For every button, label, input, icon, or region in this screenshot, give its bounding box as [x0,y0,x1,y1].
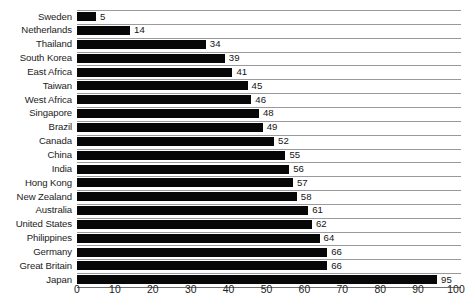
bar [77,40,206,49]
chart-row: Philippines64 [0,232,475,246]
chart-row: Netherlands14 [0,24,475,38]
category-label: Thailand [0,38,72,50]
bar-value-label: 46 [255,94,266,106]
chart-row: Germany66 [0,245,475,259]
bar-value-label: 52 [278,135,289,147]
category-label: India [0,163,72,175]
horizontal-bar-chart: Sweden5Netherlands14Thailand34South Kore… [0,0,475,306]
category-label: Netherlands [0,24,72,36]
category-label: Hong Kong [0,177,72,189]
bar-value-label: 55 [289,149,300,161]
chart-row: Thailand34 [0,38,475,52]
chart-row: Singapore48 [0,107,475,121]
x-tick-label: 60 [289,283,319,296]
chart-row: Great Britain66 [0,259,475,273]
bar [77,81,248,90]
bar [77,151,285,160]
category-label: Brazil [0,121,72,133]
chart-row: Taiwan45 [0,79,475,93]
bar [77,165,289,174]
bar-value-label: 57 [297,177,308,189]
chart-row: Sweden5 [0,10,475,24]
chart-row: South Korea39 [0,52,475,66]
bar [77,26,130,35]
chart-row: Canada52 [0,135,475,149]
x-tick-label: 20 [138,283,168,296]
bar-value-label: 64 [324,232,335,244]
x-tick-label: 30 [176,283,206,296]
bar-value-label: 49 [267,121,278,133]
category-label: West Africa [0,94,72,106]
bar-value-label: 5 [100,11,105,23]
category-label: United States [0,218,72,230]
category-label: Canada [0,135,72,147]
category-label: China [0,149,72,161]
bar-value-label: 61 [312,204,323,216]
chart-row: West Africa46 [0,93,475,107]
bar [77,137,274,146]
bar-value-label: 66 [331,260,342,272]
plot-area: Sweden5Netherlands14Thailand34South Kore… [0,0,475,306]
category-label: Great Britain [0,260,72,272]
bar [77,220,312,229]
category-label: Philippines [0,232,72,244]
bar-value-label: 45 [252,80,263,92]
bar [77,123,263,132]
category-label: Australia [0,204,72,216]
chart-row: China55 [0,149,475,163]
bar-value-label: 62 [316,218,327,230]
bar [77,12,96,21]
bar-value-label: 34 [210,38,221,50]
bar [77,178,293,187]
bar-value-label: 56 [293,163,304,175]
x-tick-label: 100 [441,283,471,296]
category-label: East Africa [0,66,72,78]
bar [77,109,259,118]
x-tick-label: 0 [62,283,92,296]
chart-row: Australia61 [0,204,475,218]
bar-value-label: 48 [263,107,274,119]
category-label: Sweden [0,11,72,23]
bar [77,192,297,201]
bar-value-label: 41 [236,66,247,78]
category-label: Singapore [0,107,72,119]
x-tick-label: 90 [403,283,433,296]
bar [77,95,251,104]
chart-row: East Africa41 [0,65,475,79]
x-tick-label: 10 [100,283,130,296]
chart-row: United States62 [0,218,475,232]
bar [77,261,327,270]
x-tick-label: 40 [214,283,244,296]
x-tick-label: 80 [365,283,395,296]
bar [77,68,232,77]
category-label: Taiwan [0,80,72,92]
chart-row: Brazil49 [0,121,475,135]
bar-value-label: 66 [331,246,342,258]
bar-value-label: 14 [134,24,145,36]
category-label: Germany [0,246,72,258]
bar [77,248,327,257]
x-tick-label: 70 [327,283,357,296]
chart-row: New Zealand58 [0,190,475,204]
bar-value-label: 39 [229,52,240,64]
x-tick-label: 50 [252,283,282,296]
bar-value-label: 58 [301,191,312,203]
bar [77,54,225,63]
bar [77,206,308,215]
category-label: New Zealand [0,191,72,203]
category-label: South Korea [0,52,72,64]
bar [77,234,320,243]
chart-row: Hong Kong57 [0,176,475,190]
chart-row: India56 [0,162,475,176]
